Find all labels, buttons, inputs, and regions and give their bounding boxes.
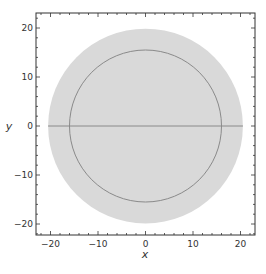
- y-tick-label: −20: [14, 219, 33, 229]
- chart: −20−1001020 20100−10−20 x y: [0, 0, 266, 274]
- y-tick-label: 0: [27, 121, 33, 131]
- y-tick-label: −10: [14, 170, 33, 180]
- y-axis-label: y: [5, 120, 13, 133]
- y-tick-label: 20: [22, 23, 34, 33]
- y-tick-label: 10: [22, 72, 34, 82]
- x-tick-label: 10: [187, 239, 199, 249]
- x-tick-label: −10: [89, 239, 108, 249]
- x-tick-label: −20: [41, 239, 60, 249]
- x-axis-label: x: [141, 248, 149, 261]
- x-tick-label: 20: [235, 239, 247, 249]
